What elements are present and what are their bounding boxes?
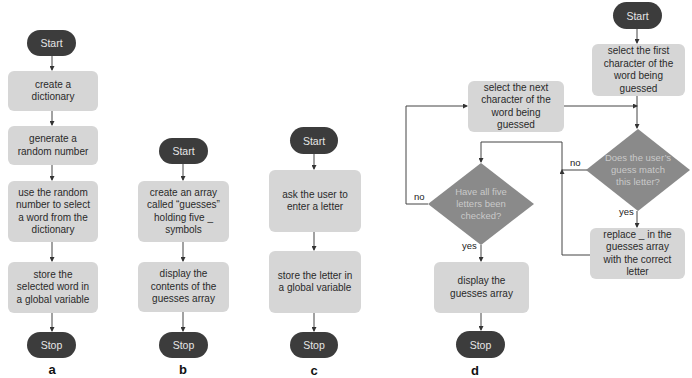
- d-label-checked-yes: yes: [462, 240, 477, 251]
- a-stop: Stop: [27, 332, 76, 358]
- a-step-2: generate a random number: [8, 126, 98, 165]
- d-decision-match-text: Does the user’s guess match this letter?: [604, 143, 672, 197]
- b-stop: Stop: [159, 332, 208, 358]
- d-label-match-yes: yes: [619, 206, 634, 217]
- b-step-2: display the contents of the guesses arra…: [138, 262, 229, 312]
- d-display: display the guesses array: [434, 262, 529, 313]
- b-start: Start: [159, 138, 208, 164]
- caption-d: d: [471, 363, 479, 378]
- b-step-1: create an array called “guesses” holding…: [138, 181, 229, 242]
- d-select-first: select the first character of the word b…: [592, 44, 685, 96]
- d-replace: replace _ in the guesses array with the …: [590, 228, 685, 279]
- caption-c: c: [310, 363, 317, 378]
- d-start: Start: [613, 2, 662, 29]
- a-start: Start: [27, 30, 76, 56]
- d-stop: Stop: [456, 331, 505, 358]
- c-step-1: ask the user to enter a letter: [269, 170, 361, 232]
- caption-b: b: [179, 362, 187, 377]
- a-step-4: store the selected word in a global vari…: [8, 262, 98, 313]
- c-stop: Stop: [290, 332, 338, 358]
- d-decision-all-checked-text: Have all five letters been checked?: [448, 180, 514, 228]
- d-label-checked-no: no: [414, 191, 425, 202]
- c-step-2: store the letter in a global variable: [269, 251, 361, 313]
- a-step-3: use the random number to select a word f…: [8, 181, 98, 242]
- a-step-1: create a dictionary: [8, 71, 98, 111]
- d-select-next: select the next character of the word be…: [468, 81, 564, 132]
- caption-a: a: [48, 362, 55, 377]
- c-start: Start: [290, 127, 338, 154]
- d-label-match-no: no: [570, 157, 581, 168]
